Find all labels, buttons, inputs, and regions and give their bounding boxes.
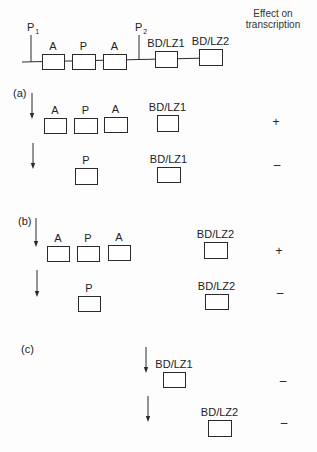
construct-element-bd-lz1-label: BD/LZ1 bbox=[147, 38, 184, 49]
panel-b-row2-effect: – bbox=[277, 288, 284, 299]
panel-b-row1-p-box bbox=[78, 247, 100, 262]
panel-b-row1-a-label: A bbox=[115, 232, 122, 243]
panel-a-row2-effect: – bbox=[274, 160, 281, 171]
panel-b-row2-p-label: P bbox=[85, 283, 92, 294]
construct-element-bd-lz2-box bbox=[200, 50, 223, 66]
promoter-p2-label: P2 bbox=[135, 22, 147, 34]
panel-b-row1-effect: + bbox=[275, 246, 282, 257]
panel-c-row2-effect: – bbox=[281, 418, 288, 429]
panel-a-row1-bd-lz1-box bbox=[158, 116, 179, 132]
construct-element-a-label: A bbox=[49, 41, 56, 52]
panel-a-row1-a-box bbox=[105, 118, 128, 133]
promoter-p1-label: P1 bbox=[27, 22, 39, 34]
diagram-lines bbox=[0, 0, 317, 452]
panel-a-row1-a-box bbox=[45, 119, 67, 134]
panel-c-row1-bd-lz1-label: BD/LZ1 bbox=[155, 359, 192, 370]
effect-header: Effect on transcription bbox=[246, 8, 300, 30]
construct-element-bd-lz1-box bbox=[156, 52, 178, 68]
construct-element-p-label: P bbox=[80, 41, 87, 52]
panel-a-row1-arrow-icon bbox=[30, 93, 34, 119]
panel-c-row2-arrow-icon bbox=[146, 396, 150, 422]
panel-c-row1-effect: – bbox=[280, 376, 287, 387]
panel-c-row2-bd-lz2-label: BD/LZ2 bbox=[201, 407, 238, 418]
panel-c-row1-bd-lz1-box bbox=[164, 373, 186, 388]
diagram-canvas: Effect on transcription P1P2APABD/LZ1BD/… bbox=[0, 0, 317, 452]
panel-b-row1-bd-lz2-box bbox=[205, 243, 228, 259]
panel-c-row2-bd-lz2-box bbox=[209, 421, 232, 437]
panel-a-row2-p-box bbox=[76, 169, 98, 185]
panel-a-row2-bd-lz1-box bbox=[158, 168, 181, 183]
construct-element-p-box bbox=[73, 55, 96, 70]
panel-a-row1-bd-lz1-label: BD/LZ1 bbox=[149, 102, 186, 113]
panel-b-row2-arrow-icon bbox=[35, 270, 39, 297]
panel-a-row1-p-box bbox=[75, 119, 98, 134]
panel-a-row1-a-label: A bbox=[112, 104, 119, 115]
panel-c-row1-arrow-icon bbox=[144, 347, 148, 373]
construct-element-bd-lz2-label: BD/LZ2 bbox=[192, 36, 229, 47]
panel-b-row1-arrow-icon bbox=[34, 218, 38, 247]
panel-a-label: (a) bbox=[13, 88, 26, 99]
panel-a-row1-effect: + bbox=[272, 117, 279, 128]
construct-element-a-label: A bbox=[111, 41, 118, 52]
panel-a-row2-bd-lz1-label: BD/LZ1 bbox=[150, 154, 187, 165]
panel-a-row1-a-label: A bbox=[51, 105, 58, 116]
panel-c-label: (c) bbox=[21, 344, 34, 355]
panel-b-row1-bd-lz2-label: BD/LZ2 bbox=[197, 229, 234, 240]
panel-b-row1-a-box bbox=[48, 247, 70, 262]
panel-b-row1-a-box bbox=[109, 246, 131, 261]
panel-b-row1-a-label: A bbox=[54, 233, 61, 244]
panel-b-row2-bd-lz2-box bbox=[206, 295, 229, 310]
effect-header-line2: transcription bbox=[246, 19, 300, 30]
construct-element-a-box bbox=[43, 55, 65, 70]
panel-b-row2-bd-lz2-label: BD/LZ2 bbox=[198, 281, 235, 292]
construct-element-a-box bbox=[104, 55, 127, 70]
panel-b-row1-p-label: P bbox=[84, 233, 91, 244]
panel-a-row2-arrow-icon bbox=[31, 143, 35, 169]
panel-a-row1-p-label: P bbox=[82, 105, 89, 116]
panel-b-row2-p-box bbox=[79, 297, 101, 312]
panel-a-row2-p-label: P bbox=[82, 155, 89, 166]
panel-b-label: (b) bbox=[18, 216, 31, 227]
effect-header-line1: Effect on bbox=[246, 8, 300, 19]
